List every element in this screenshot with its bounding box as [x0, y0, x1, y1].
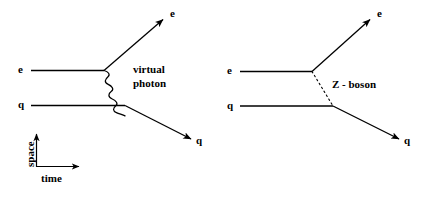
space-time-axes-group: [36, 134, 79, 167]
space-axis-label: space: [24, 141, 37, 167]
right-outgoing-electron-line: [312, 20, 370, 72]
z-boson-label: Z - boson: [332, 78, 376, 91]
right-outgoing-quark-label: q: [404, 134, 410, 147]
right-incoming-electron-label: e: [227, 64, 232, 77]
left-diagram-group: [31, 20, 191, 140]
feynman-diagram-figure: e e q q virtual photon e e q q Z - boson…: [0, 0, 431, 197]
diagram-canvas: [0, 0, 431, 197]
left-incoming-quark-label: q: [18, 98, 24, 111]
virtual-photon-label-line1: virtual: [133, 63, 165, 77]
virtual-photon-label-line2: photon: [133, 77, 166, 91]
right-outgoing-electron-label: e: [377, 7, 382, 20]
time-axis-label: time: [41, 172, 62, 185]
left-outgoing-electron-label: e: [170, 7, 175, 20]
left-incoming-electron-label: e: [18, 63, 23, 76]
z-boson-dotted-propagator: [312, 72, 333, 107]
right-incoming-quark-label: q: [227, 99, 233, 112]
left-outgoing-quark-line: [125, 106, 191, 140]
right-outgoing-quark-line: [333, 106, 399, 139]
virtual-photon-wavy-propagator: [104, 71, 125, 116]
left-outgoing-quark-label: q: [196, 134, 202, 147]
